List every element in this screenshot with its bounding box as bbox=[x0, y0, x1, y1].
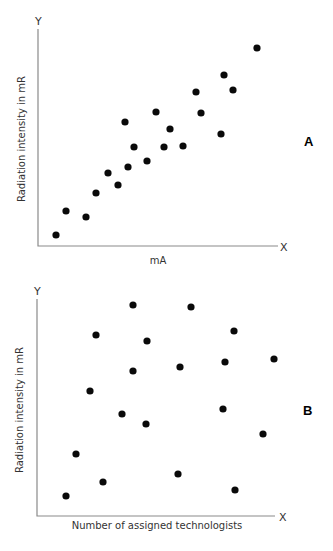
chart-a-points bbox=[52, 44, 260, 238]
chart-a-x-axis-label: mA bbox=[150, 255, 167, 266]
data-point bbox=[104, 169, 111, 176]
chart-a-x-axis-letter: X bbox=[280, 241, 288, 254]
chart-a-y-axis-label: Radiation intensity in mR bbox=[16, 76, 27, 202]
data-point bbox=[231, 486, 238, 493]
data-point bbox=[143, 157, 150, 164]
chart-b: Y X Radiation intensity in mR Number of … bbox=[14, 285, 312, 531]
data-point bbox=[130, 143, 137, 150]
data-point bbox=[220, 71, 227, 78]
data-point bbox=[229, 86, 236, 93]
data-point bbox=[129, 367, 136, 374]
data-point bbox=[187, 303, 194, 310]
data-point bbox=[166, 125, 173, 132]
data-point bbox=[52, 231, 59, 238]
data-point bbox=[129, 301, 136, 308]
data-point bbox=[176, 363, 183, 370]
chart-b-x-axis-label: Number of assigned technologists bbox=[72, 520, 243, 531]
data-point bbox=[62, 492, 69, 499]
data-point bbox=[118, 410, 125, 417]
data-point bbox=[142, 420, 149, 427]
data-point bbox=[221, 358, 228, 365]
chart-a: Y X Radiation intensity in mR mA A bbox=[16, 15, 314, 266]
chart-b-points bbox=[62, 301, 277, 499]
data-point bbox=[62, 207, 69, 214]
chart-b-panel-label: B bbox=[303, 403, 312, 418]
data-point bbox=[217, 130, 224, 137]
data-point bbox=[72, 450, 79, 457]
data-point bbox=[259, 430, 266, 437]
data-point bbox=[230, 327, 237, 334]
data-point bbox=[114, 181, 121, 188]
chart-a-axes bbox=[38, 29, 278, 246]
data-point bbox=[124, 163, 131, 170]
data-point bbox=[92, 189, 99, 196]
data-point bbox=[174, 470, 181, 477]
data-point bbox=[152, 108, 159, 115]
data-point bbox=[92, 331, 99, 338]
data-point bbox=[121, 118, 128, 125]
chart-b-x-axis-letter: X bbox=[279, 511, 287, 524]
data-point bbox=[253, 44, 260, 51]
data-point bbox=[192, 88, 199, 95]
figure: Y X Radiation intensity in mR mA A Y X R… bbox=[0, 0, 333, 551]
data-point bbox=[82, 213, 89, 220]
data-point bbox=[86, 387, 93, 394]
chart-b-axes bbox=[37, 299, 275, 516]
data-point bbox=[270, 355, 277, 362]
chart-a-panel-label: A bbox=[304, 134, 314, 149]
data-point bbox=[143, 337, 150, 344]
chart-b-y-axis-letter: Y bbox=[33, 285, 41, 298]
data-point bbox=[197, 109, 204, 116]
data-point bbox=[179, 142, 186, 149]
chart-a-y-axis-letter: Y bbox=[34, 15, 42, 28]
data-point bbox=[99, 478, 106, 485]
chart-b-y-axis-label: Radiation intensity in mR bbox=[14, 347, 25, 473]
data-point bbox=[219, 405, 226, 412]
data-point bbox=[160, 143, 167, 150]
